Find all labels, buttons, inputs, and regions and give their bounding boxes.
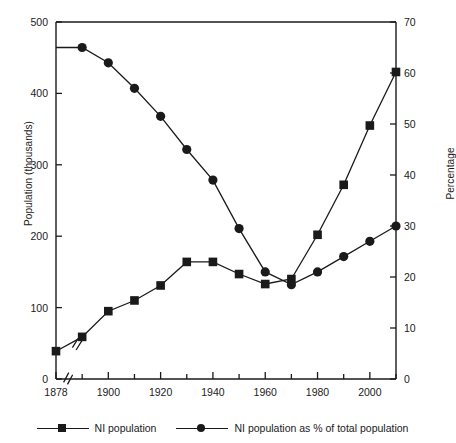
y-right-tick-label: 40 (404, 169, 416, 181)
y-axis-right-title: Percentage (445, 84, 456, 264)
data-point-square (392, 68, 401, 77)
data-point-circle (339, 252, 348, 261)
y-left-tick-label: 100 (30, 302, 48, 314)
x-axis-tick-label: 1940 (201, 386, 225, 398)
y-axis-left-ticks: 0100200300400500 (30, 16, 62, 385)
axis-break-slash (76, 341, 82, 350)
x-axis-tick-label: 1960 (254, 386, 278, 398)
x-axis-tick-label: 2000 (358, 386, 382, 398)
data-series-group (52, 43, 401, 356)
x-axis-tick-label: 1920 (149, 386, 173, 398)
data-point-square (130, 296, 139, 305)
x-axis-tick-label: 1878 (44, 386, 68, 398)
y-left-tick-label: 500 (30, 16, 48, 28)
series-line-2 (56, 48, 396, 285)
y-right-tick-label: 50 (404, 118, 416, 130)
legend-item-ni-population: NI population (37, 422, 157, 434)
x-axis-ticks: 1878190019201940196019802000 (44, 372, 396, 398)
data-point-circle (156, 112, 165, 121)
legend-label-ni-population: NI population (95, 422, 157, 434)
y-left-tick-label: 0 (42, 373, 48, 385)
data-point-circle (208, 176, 217, 185)
y-right-tick-label: 10 (404, 322, 416, 334)
x-axis-tick-label: 1900 (97, 386, 121, 398)
y-right-tick-label: 30 (404, 220, 416, 232)
x-axis-tick-label: 1980 (306, 386, 330, 398)
data-point-square (366, 121, 375, 130)
axes-group (56, 22, 396, 379)
data-point-circle (391, 221, 400, 230)
data-point-circle (234, 224, 243, 233)
legend-item-ni-population-percent: NI population as % of total population (176, 422, 408, 434)
plot-area: 1878190019201940196019802000 01002003004… (0, 0, 445, 415)
data-point-square (313, 230, 322, 239)
data-point-circle (261, 267, 270, 276)
y-right-tick-label: 20 (404, 271, 416, 283)
data-point-circle (78, 43, 87, 52)
data-point-circle (182, 145, 191, 154)
data-point-square (261, 280, 270, 289)
y-left-tick-label: 200 (30, 230, 48, 242)
chart-legend: NI population NI population as % of tota… (0, 416, 445, 440)
data-point-square (78, 333, 87, 342)
data-point-square (339, 180, 348, 189)
data-point-circle (365, 237, 374, 246)
y-right-tick-label: 60 (404, 67, 416, 79)
y-right-tick-label: 0 (404, 373, 410, 385)
data-point-square (209, 258, 218, 267)
data-point-circle (313, 267, 322, 276)
y-left-tick-label: 400 (30, 87, 48, 99)
data-point-circle (130, 84, 139, 93)
data-point-square (235, 270, 244, 279)
axis-break-slash (64, 373, 69, 383)
data-point-square (156, 281, 165, 290)
legend-swatch-square-icon (37, 422, 89, 434)
legend-label-ni-population-percent: NI population as % of total population (234, 422, 408, 434)
legend-swatch-circle-icon (176, 422, 228, 434)
data-point-circle (287, 280, 296, 289)
data-point-square (182, 258, 191, 267)
data-point-square (104, 307, 113, 316)
y-left-tick-label: 300 (30, 159, 48, 171)
data-point-circle (104, 58, 113, 67)
data-point-square (52, 347, 61, 356)
y-right-tick-label: 70 (404, 16, 416, 28)
